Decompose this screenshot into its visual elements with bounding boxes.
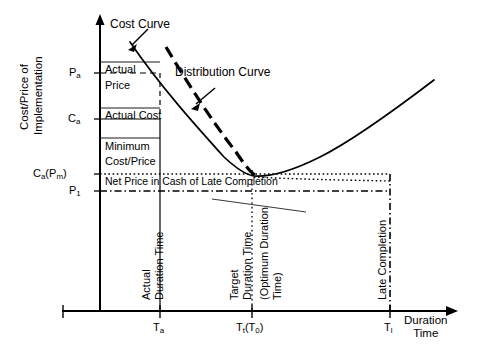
x-tick-label-tt-sub: t — [243, 326, 245, 335]
x-tick-label-ta-main: T — [153, 321, 160, 333]
y-tick-label-ca-main: C — [68, 112, 76, 124]
actual-cost-label: Actual Cost — [105, 109, 161, 121]
x-axis-title-line2: Time — [404, 327, 447, 340]
minimum-cost-label-line2: Cost/Price — [105, 155, 156, 167]
y-tick-label-pa-sub: a — [76, 71, 80, 80]
y-tick-label-p1-sub: 1 — [76, 189, 80, 198]
y-axis-title: Cost/Price of — [18, 64, 31, 130]
late-completion-label: Late Completion — [376, 220, 388, 300]
y-axis-title-line1: Cost/Price of — [18, 64, 31, 130]
y-tick-label-ca-sub: a — [76, 117, 80, 126]
target-duration-label-line1: Target — [228, 269, 240, 300]
cost-curve-callout-label: Cost Curve — [110, 18, 170, 31]
x-tick-label-tl-main: T — [384, 321, 391, 333]
y-tick-label-capm-close: ) — [63, 167, 67, 179]
x-tick-label-tl: Tl — [384, 321, 393, 334]
distribution-curve-arrow-shaft — [196, 88, 215, 104]
actual-price-label-line1: Actual — [105, 63, 136, 75]
y-tick-label-ca: Ca — [68, 112, 80, 125]
x-tick-label-tt: Tt(T0) — [236, 321, 263, 334]
distribution-curve-arrowhead — [191, 103, 200, 111]
y-tick-label-capm-main: C — [33, 167, 41, 179]
y-tick-label-p1: P1 — [69, 184, 81, 197]
actual-duration-label-line2: Duration Time — [153, 232, 165, 300]
x-axis-title-line1: Duration — [404, 314, 447, 327]
y-tick-label-capm-sub: a — [41, 172, 45, 181]
actual-duration-label-line1: Actual — [140, 269, 152, 300]
actual-price-label-line2: Price — [105, 79, 130, 91]
y-tick-label-capm: Ca(Pm) — [33, 167, 67, 180]
y-tick-label-capm-sub2: m — [56, 172, 63, 181]
x-tick-label-ta: Ta — [153, 321, 164, 334]
optimum-duration-label-line1: (Optimum Duration — [258, 207, 270, 300]
distribution-curve-callout-label: Distribution Curve — [175, 66, 270, 79]
y-axis-arrowhead — [96, 14, 105, 25]
x-tick-label-ta-sub: a — [160, 326, 164, 335]
x-tick-label-tl-sub: l — [391, 326, 393, 335]
minimum-cost-label-line1: Minimum — [105, 140, 150, 152]
x-tick-label-tt-close: ) — [260, 321, 264, 333]
x-tick-label-tt-sub2: 0 — [255, 326, 259, 335]
x-tick-label-tt-main: T — [236, 321, 243, 333]
target-duration-label-line2: Duration Time — [241, 232, 253, 300]
net-price-band-label: Net Price in Cash of Late Completion — [105, 176, 278, 188]
y-tick-label-pa: Pa — [69, 66, 81, 79]
y-axis-title-second: Implementation — [32, 56, 45, 135]
x-axis-title: Duration Time — [404, 314, 447, 340]
optimum-duration-label-line2: Time) — [271, 272, 283, 300]
cost-price-duration-diagram: Cost/Price of Implementation Duration Ti… — [0, 0, 479, 355]
x-axis-arrowhead — [446, 306, 458, 316]
y-axis-title-line2: Implementation — [32, 56, 45, 135]
